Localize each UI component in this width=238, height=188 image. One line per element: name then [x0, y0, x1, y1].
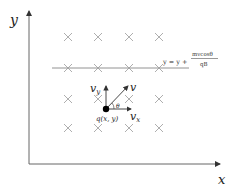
field-cross-icon: [64, 95, 72, 103]
y-axis-label: y: [9, 12, 19, 28]
theta-label: θ: [116, 102, 120, 109]
field-cross-icon: [64, 33, 72, 41]
equation-denominator: qB: [200, 61, 208, 68]
field-cross-icon: [125, 124, 133, 132]
v-label: v: [130, 81, 137, 94]
charge-dot: [103, 106, 109, 112]
vx-label: vx: [130, 110, 140, 124]
field-cross-icon: [64, 124, 72, 132]
field-cross-icon: [94, 124, 102, 132]
equation-numerator: mvcosθ: [192, 51, 214, 57]
field-cross-icon: [155, 33, 163, 41]
diagram-canvas: y x y = y + mvcosθ qB vy v θ vx q(x, y): [0, 0, 238, 188]
field-cross-icon: [155, 124, 163, 132]
equation-lhs: y = y +: [162, 58, 187, 66]
field-cross-icon: [125, 95, 133, 103]
vy-label: vy: [90, 82, 101, 96]
x-axis-label: x: [218, 172, 226, 187]
angle-arc: [112, 103, 114, 109]
field-cross-icon: [94, 95, 102, 103]
field-cross-icon: [155, 95, 163, 103]
line-equation: y = y + mvcosθ qB: [162, 51, 218, 68]
field-cross-icon: [94, 33, 102, 41]
charge-label: q(x, y): [96, 115, 119, 123]
field-cross-icon: [125, 33, 133, 41]
